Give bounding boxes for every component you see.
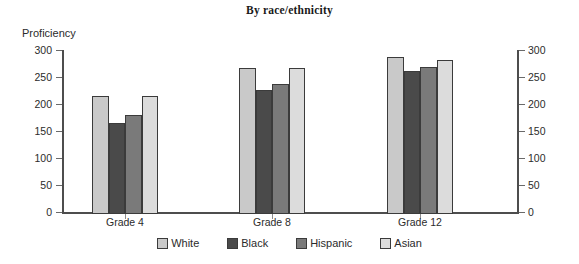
bar <box>420 67 437 214</box>
y-tick-label-right: 100 <box>528 153 562 163</box>
x-tick-label: Grade 4 <box>65 216 185 228</box>
bar <box>404 71 421 214</box>
bar <box>289 68 306 214</box>
legend-swatch-icon <box>157 238 168 249</box>
y-tick-label-left: 100 <box>18 153 52 163</box>
y-tick-label-right: 0 <box>528 207 562 217</box>
y-tick-label-left: 200 <box>18 99 52 109</box>
y-tick-label-left: 250 <box>18 72 52 82</box>
y-tick-left <box>56 185 62 186</box>
y-tick-right <box>519 104 525 105</box>
legend-item[interactable]: White <box>157 237 199 249</box>
y-tick-left <box>56 131 62 132</box>
y-tick-right <box>519 50 525 51</box>
plot-area <box>63 50 518 214</box>
x-tick-label: Grade 12 <box>360 216 480 228</box>
y-tick-right <box>519 77 525 78</box>
legend-label: Hispanic <box>310 237 352 249</box>
chart-title: By race/ethnicity <box>0 4 579 16</box>
y-tick-label-right: 250 <box>528 72 562 82</box>
legend-label: White <box>171 237 199 249</box>
y-tick-label-left: 150 <box>18 126 52 136</box>
y-tick-label-left: 0 <box>18 207 52 217</box>
y-tick-label-right: 200 <box>528 99 562 109</box>
y-tick-right <box>519 185 525 186</box>
y-tick-label-right: 150 <box>528 126 562 136</box>
legend-item[interactable]: Black <box>227 237 268 249</box>
y-tick-left <box>56 212 62 213</box>
bar <box>92 96 109 214</box>
y-tick-label-left: 50 <box>18 180 52 190</box>
bar <box>256 90 273 214</box>
bar <box>109 123 126 214</box>
y-tick-label-right: 300 <box>528 45 562 55</box>
legend-item[interactable]: Asian <box>380 237 422 249</box>
bar <box>437 60 454 214</box>
y-tick-right <box>519 131 525 132</box>
legend-swatch-icon <box>227 238 238 249</box>
bar <box>142 96 159 214</box>
legend-item[interactable]: Hispanic <box>296 237 352 249</box>
x-tick-label: Grade 8 <box>212 216 332 228</box>
y-tick-right <box>519 158 525 159</box>
chart-figure: By race/ethnicity Proficiency 0501001502… <box>0 0 579 264</box>
chart-legend: WhiteBlackHispanicAsian <box>0 237 579 249</box>
y-tick-right <box>519 212 525 213</box>
legend-swatch-icon <box>296 238 307 249</box>
y-axis-title: Proficiency <box>22 27 76 39</box>
y-tick-left <box>56 104 62 105</box>
bar <box>125 115 142 214</box>
y-tick-left <box>56 50 62 51</box>
bar <box>272 84 289 214</box>
bar <box>239 68 256 214</box>
legend-label: Black <box>241 237 268 249</box>
bar <box>387 57 404 214</box>
y-tick-left <box>56 158 62 159</box>
y-tick-label-right: 50 <box>528 180 562 190</box>
y-tick-label-left: 300 <box>18 45 52 55</box>
legend-swatch-icon <box>380 238 391 249</box>
legend-label: Asian <box>394 237 422 249</box>
y-tick-left <box>56 77 62 78</box>
